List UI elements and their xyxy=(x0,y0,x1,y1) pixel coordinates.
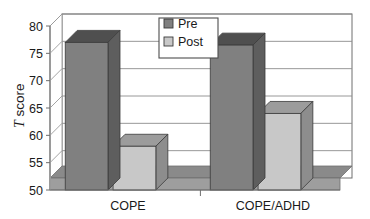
x-category-label: COPE xyxy=(110,199,145,213)
bar-side-face xyxy=(108,30,120,190)
bar-cope-pre xyxy=(65,30,120,190)
chart-legend[interactable]: PrePost xyxy=(159,17,218,59)
bar-front-face xyxy=(210,45,253,190)
y-tick-label: 50 xyxy=(29,184,43,198)
y-tick-label: 60 xyxy=(29,129,43,143)
y-tick-label: 55 xyxy=(29,156,43,170)
legend-swatch-post xyxy=(164,37,173,46)
bar-cope-post xyxy=(113,134,168,190)
legend-swatch-pre xyxy=(164,19,173,28)
y-axis-title-text: score xyxy=(12,83,27,120)
chart-container: 50556065707580 COPECOPE/ADHD T score Pre… xyxy=(0,0,370,219)
legend-label-pre: Pre xyxy=(178,17,198,31)
bar-chart: 50556065707580 COPECOPE/ADHD T score Pre… xyxy=(0,0,370,219)
y-tick-label: 65 xyxy=(29,102,43,116)
y-tick-label: 75 xyxy=(29,47,43,61)
svg-text:T score: T score xyxy=(12,83,27,128)
bar-front-face xyxy=(65,42,108,190)
y-tick-label: 80 xyxy=(29,20,43,34)
legend-label-post: Post xyxy=(178,35,204,49)
bar-side-face xyxy=(301,101,313,190)
x-category-label: COPE/ADHD xyxy=(236,199,310,213)
bar-cope-adhd-post xyxy=(258,101,313,190)
y-tick-label: 70 xyxy=(29,74,43,88)
y-axis-title: T score xyxy=(12,83,27,128)
bar-side-face xyxy=(253,33,265,190)
